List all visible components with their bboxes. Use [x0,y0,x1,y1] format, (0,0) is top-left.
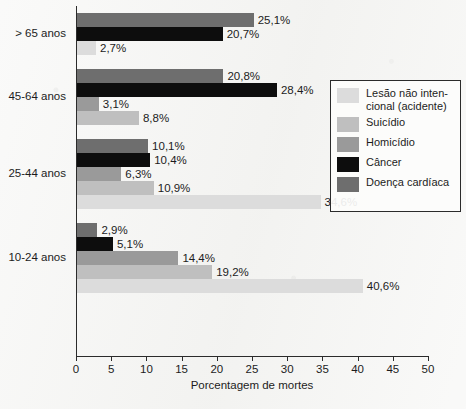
x-tick-label: 25 [246,363,259,375]
x-tick-mark [287,356,288,361]
x-tick-mark [111,356,112,361]
bar[interactable] [77,41,96,55]
legend-item[interactable]: Suicídio [337,116,455,132]
x-tick-mark [393,356,394,361]
x-tick-label: 50 [422,363,435,375]
bar[interactable] [77,279,363,293]
bar[interactable] [77,97,99,111]
x-tick-label: 10 [140,363,153,375]
bar-value-label: 10,9% [158,181,191,195]
category-label: > 65 anos [0,27,66,39]
x-tick-label: 30 [281,363,294,375]
x-tick-mark [322,356,323,361]
bar-value-label: 14,4% [182,251,215,265]
bar[interactable] [77,181,154,195]
bar-value-label: 6,3% [125,167,151,181]
legend-label: Homicídio [366,136,415,149]
x-tick-mark [252,356,253,361]
x-tick-mark [358,356,359,361]
bar[interactable] [77,167,121,181]
legend-swatch [337,117,359,132]
x-tick-label: 5 [108,363,114,375]
bar-value-label: 28,4% [281,83,314,97]
bar-value-label: 8,8% [143,111,169,125]
legend-label: Doença cardíaca [366,176,449,189]
category-label: 25-44 anos [0,167,66,179]
legend-item[interactable]: Lesão não inten-cional (acidente) [337,87,455,112]
legend-swatch [337,88,359,103]
x-tick-label: 35 [316,363,329,375]
x-tick-mark [182,356,183,361]
bar[interactable] [77,69,223,83]
bar-value-label: 2,9% [101,223,127,237]
bar[interactable] [77,111,139,125]
x-tick-label: 45 [386,363,399,375]
bar[interactable] [77,153,150,167]
x-tick-label: 0 [73,363,79,375]
legend-swatch [337,137,359,152]
bar-value-label: 20,8% [227,69,260,83]
bar-value-label: 25,1% [258,13,291,27]
x-tick-label: 20 [210,363,223,375]
bar-value-label: 40,6% [367,279,400,293]
legend-label: Câncer [366,156,401,169]
x-tick-label: 15 [175,363,188,375]
bar-chart: > 65 anos45-64 anos25-44 anos10-24 anos … [0,0,466,409]
bar-value-label: 19,2% [216,265,249,279]
bar[interactable] [77,223,97,237]
bar[interactable] [77,27,223,41]
x-tick-mark [146,356,147,361]
x-tick-mark [76,356,77,361]
x-tick-mark [217,356,218,361]
bar-value-label: 2,7% [100,41,126,55]
x-axis-title: Porcentagem de mortes [76,379,428,391]
bar-value-label: 10,4% [154,153,187,167]
bar[interactable] [77,237,113,251]
legend-item[interactable]: Homicídio [337,136,455,152]
bar[interactable] [77,139,148,153]
bar-value-label: 5,1% [117,237,143,251]
bar[interactable] [77,265,212,279]
legend-item[interactable]: Doença cardíaca [337,176,455,192]
bar[interactable] [77,251,178,265]
x-tick-mark [428,356,429,361]
legend-label: Suicídio [366,116,405,129]
legend-swatch [337,157,359,172]
bar-value-label: 3,1% [103,97,129,111]
legend-item[interactable]: Câncer [337,156,455,172]
legend-label: Lesão não inten-cional (acidente) [366,87,448,112]
legend-swatch [337,177,359,192]
bar[interactable] [77,195,321,209]
bar-value-label: 20,7% [227,27,260,41]
x-tick-label: 40 [351,363,364,375]
bar-value-label: 10,1% [152,139,185,153]
category-label: 10-24 anos [0,251,66,263]
bar[interactable] [77,13,254,27]
bar[interactable] [77,83,277,97]
category-label: 45-64 anos [0,90,66,102]
legend: Lesão não inten-cional (acidente)Suicídi… [330,80,461,212]
